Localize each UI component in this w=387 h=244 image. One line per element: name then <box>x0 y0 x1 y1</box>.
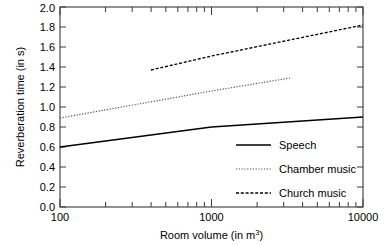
x-tick-label: 10000 <box>348 211 379 223</box>
y-tick-label: 0.8 <box>40 121 55 133</box>
y-tick-label: 1.2 <box>40 81 55 93</box>
legend-label-speech: Speech <box>279 139 316 151</box>
legend-label-chamber-music: Chamber music <box>279 163 357 175</box>
x-axis-title-tail: ) <box>259 229 263 241</box>
x-axis-title: Room volume (in m3) <box>160 228 263 241</box>
x-tick-label: 100 <box>51 211 69 223</box>
x-axis-title-base: Room volume (in m <box>160 229 255 241</box>
chart-svg: 0.0 0.2 0.4 0.6 0.8 1.0 1.2 1.4 1.6 1.8 … <box>0 0 387 244</box>
y-axis-title-text: Reverberation time (in s) <box>14 47 26 167</box>
y-tick-label: 1.8 <box>40 21 55 33</box>
legend-label-church-music: Church music <box>279 187 347 199</box>
y-tick-label: 1.4 <box>40 61 55 73</box>
y-axis-title: Reverberation time (in s) <box>14 47 26 167</box>
y-tick-label: 1.0 <box>40 101 55 113</box>
x-tick-label: 1000 <box>199 211 223 223</box>
y-tick-label: 2.0 <box>40 2 55 14</box>
y-tick-label: 1.6 <box>40 41 55 53</box>
x-axis-title-text: Room volume (in m3) <box>160 228 263 241</box>
y-tick-label: 0.2 <box>40 181 55 193</box>
reverberation-time-chart: 0.0 0.2 0.4 0.6 0.8 1.0 1.2 1.4 1.6 1.8 … <box>0 0 387 244</box>
y-tick-label: 0.4 <box>40 161 55 173</box>
y-tick-label: 0.6 <box>40 141 55 153</box>
